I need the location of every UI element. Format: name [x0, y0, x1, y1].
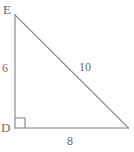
triangle-drawing: [0, 0, 134, 152]
side-length-label-vertical: 6: [2, 62, 8, 75]
right-angle-marker-icon: [15, 118, 25, 128]
side-length-label-hypotenuse: 10: [79, 61, 91, 74]
vertex-label-d: D: [1, 121, 10, 134]
vertex-label-e: E: [3, 3, 11, 16]
side-length-label-horizontal: 8: [67, 135, 73, 148]
geometry-figure: E D 6 10 8: [0, 0, 134, 152]
side-hypotenuse: [15, 15, 129, 128]
